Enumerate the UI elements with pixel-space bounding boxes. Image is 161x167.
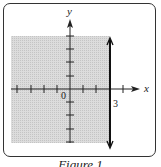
- origin-label: 0: [61, 91, 66, 101]
- y-axis-label: y: [67, 6, 72, 17]
- x-axis-label: x: [144, 83, 149, 94]
- line-value-label: 3: [113, 99, 118, 109]
- graph-canvas: [0, 0, 161, 167]
- figure-caption: Figure 1: [0, 158, 161, 167]
